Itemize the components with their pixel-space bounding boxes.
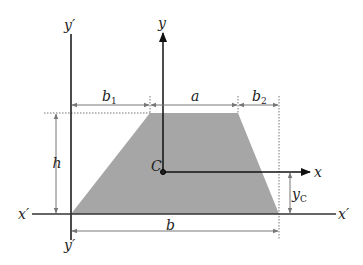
label-x-prime-right: x′: [338, 206, 350, 222]
label-y: y: [157, 15, 167, 31]
label-b1: b1: [102, 88, 117, 106]
label-y-prime-bottom: y′: [63, 237, 76, 253]
label-a: a: [191, 88, 199, 104]
label-x: x: [314, 164, 322, 180]
label-x-prime-left: x′: [18, 206, 30, 222]
trapezoid-diagram: y′ y′ y x x′ x′ C b1 a b2 h b yC: [0, 0, 363, 265]
label-b: b: [166, 217, 175, 233]
label-h: h: [52, 155, 61, 171]
label-yc: yC: [291, 186, 307, 204]
trapezoid-shape: [71, 113, 279, 214]
label-y-prime-top: y′: [63, 17, 76, 33]
label-centroid: C: [151, 158, 162, 174]
label-b2: b2: [252, 88, 267, 106]
